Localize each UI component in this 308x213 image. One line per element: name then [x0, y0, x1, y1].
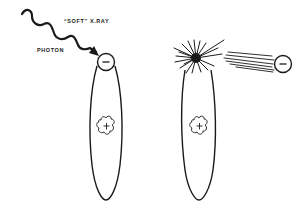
panel-after — [174, 40, 292, 200]
soft-xray-label: “SOFT” X.RAY — [64, 18, 109, 24]
atom-outline-left — [90, 66, 122, 200]
photon-wave — [22, 10, 96, 52]
nucleus-left — [97, 116, 114, 134]
absorption-burst-icon — [174, 40, 224, 73]
atom-outline-right — [182, 70, 216, 200]
photoelectric-diagram — [0, 0, 308, 213]
nucleus-right — [190, 116, 207, 134]
panel-before — [22, 10, 122, 200]
motion-streaks — [224, 52, 274, 72]
photon-label: PHOTON — [37, 47, 64, 53]
